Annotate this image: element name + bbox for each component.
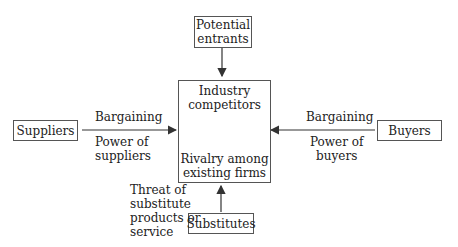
substitutes-threat-label: Threat of substitute products or service: [130, 183, 201, 239]
node-buyers: Buyers: [377, 120, 442, 141]
center-bottom-label: Rivalry among existing firms: [178, 152, 271, 180]
suppliers-bargaining-label: Bargaining: [95, 110, 162, 124]
node-potential-entrants: Potential entrants: [194, 16, 252, 48]
center-top-label: Industry competitors: [178, 84, 271, 112]
node-suppliers: Suppliers: [13, 120, 78, 141]
buyers-power-label: Power of buyers: [310, 135, 363, 163]
buyers-bargaining-label: Bargaining: [306, 110, 373, 124]
suppliers-power-label: Power of suppliers: [95, 135, 151, 163]
